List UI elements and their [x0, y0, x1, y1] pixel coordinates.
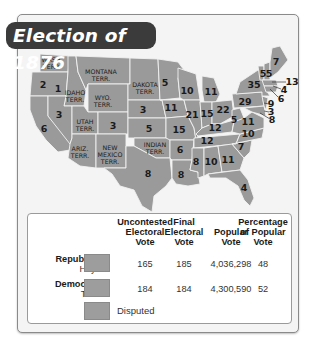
ev-kansas: 5 — [146, 124, 153, 134]
ev-illinois: 21 — [185, 110, 198, 120]
ev-ohio: 22 — [216, 105, 229, 115]
ev-indiana: 15 — [200, 109, 213, 119]
ev-maryland: 8 — [269, 115, 276, 125]
header-final-electoral-vote: Final Electoral Vote — [165, 217, 204, 247]
ev-arkansas: 6 — [177, 145, 184, 155]
territory-label-idaho: IDAHOTERR. — [65, 89, 86, 103]
ev-texas: 8 — [145, 169, 152, 179]
ev-south-carolina: 7 — [238, 142, 245, 152]
ev-oregon: 2 — [40, 80, 47, 90]
ev-louisiana: 8 — [178, 170, 185, 180]
ev-kentucky: 12 — [208, 123, 221, 133]
ev-virginia: 11 — [241, 117, 254, 127]
cell-democratic-percentage: 52 — [258, 284, 268, 294]
territory-label-ariz: ARIZ.TERR. — [71, 145, 89, 159]
ev-california: 6 — [41, 124, 48, 134]
ev-minnesota: 5 — [162, 78, 169, 88]
map-title: Election of 1876 — [6, 22, 156, 49]
ev-idaho-area: 1 — [55, 84, 62, 94]
ev-florida: 4 — [241, 183, 248, 193]
ev-michigan: 11 — [204, 87, 217, 97]
territory-label-dakota: DAKOTATERR. — [132, 81, 157, 95]
territory-label-new-mexico: NEWMEXICOTERR. — [98, 144, 123, 165]
ev-new-hampshire: 5 — [266, 69, 273, 79]
ev-georgia: 11 — [221, 155, 234, 165]
ev-alabama: 10 — [204, 157, 217, 167]
ev-nebraska: 3 — [140, 105, 147, 115]
territory-label-montana: MONTANATERR. — [85, 68, 117, 82]
ev-connecticut: 6 — [278, 94, 285, 104]
label-disputed: Disputed — [117, 306, 155, 316]
ev-pennsylvania: 29 — [238, 97, 251, 107]
ev-mississippi: 8 — [193, 157, 200, 167]
cell-republican-popular: 4,036,298 — [211, 259, 252, 269]
ev-colorado: 3 — [110, 121, 117, 131]
ev-maine: 7 — [273, 57, 280, 67]
cell-republican-final: 185 — [176, 259, 191, 269]
territory-label-wyo: WYO.TERR. — [94, 94, 112, 108]
ev-west-virginia: 5 — [231, 115, 238, 125]
cell-democratic-popular: 4,300,590 — [211, 284, 252, 294]
cell-democratic-final: 184 — [176, 284, 191, 294]
territory-label-indian: INDIANTERR. — [144, 141, 166, 155]
swatch-disputed — [84, 302, 110, 320]
swatch-republican — [84, 254, 110, 272]
cell-republican-percentage: 48 — [258, 259, 268, 269]
ev-nevada: 3 — [56, 110, 63, 120]
header-percentage-popular-vote: Percentage of Popular Vote — [238, 217, 288, 247]
ev-iowa: 11 — [164, 103, 177, 113]
swatch-democratic — [84, 279, 110, 297]
ev-tennessee: 12 — [200, 136, 213, 146]
ev-wisconsin: 10 — [180, 86, 193, 96]
ev-new-york: 35 — [247, 80, 260, 90]
territory-label-utah: UTAHTERR. — [76, 118, 94, 132]
ev-north-carolina: 10 — [241, 129, 254, 139]
ev-missouri: 15 — [172, 125, 185, 135]
cell-democratic-uncontested: 184 — [137, 284, 152, 294]
cell-republican-uncontested: 165 — [137, 259, 152, 269]
results-legend-table: Uncontested Electoral Vote Final Elector… — [27, 213, 292, 324]
